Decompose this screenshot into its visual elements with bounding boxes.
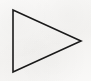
triangle-shape-svg xyxy=(0,0,91,81)
image-canvas xyxy=(0,0,91,81)
right-pointing-triangle-outline xyxy=(13,10,81,72)
